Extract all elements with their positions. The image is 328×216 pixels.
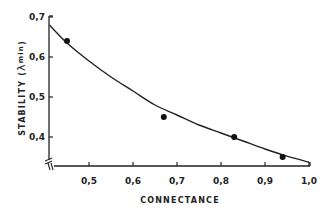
x-tick-label: 0,8 xyxy=(213,176,229,186)
y-axis-title-close: ) xyxy=(18,40,27,45)
x-tick-label: 0,9 xyxy=(257,176,273,186)
y-axis-title-subscript: min xyxy=(17,45,25,63)
y-axis-title: STABILITY (λmin) xyxy=(15,40,28,136)
x-tick-label: 1,0 xyxy=(301,176,317,186)
x-tick-label: 0,7 xyxy=(169,176,185,186)
y-tick-label: 0,6 xyxy=(29,52,45,62)
x-axis-title: CONNECTANCE xyxy=(140,196,220,205)
data-point xyxy=(231,134,237,140)
chart: 0,50,60,70,80,91,0 0,40,50,60,7 CONNECTA… xyxy=(0,0,328,216)
x-tick-label: 0,5 xyxy=(81,176,97,186)
fitted-curve xyxy=(49,25,309,162)
y-axis-title-main: STABILITY ( xyxy=(18,71,27,136)
svg-text:STABILITY (λmin): STABILITY (λmin) xyxy=(15,40,28,136)
data-point xyxy=(161,114,167,120)
data-points xyxy=(64,38,286,160)
y-tick-label: 0,4 xyxy=(29,132,45,142)
y-tick-label: 0,5 xyxy=(29,92,45,102)
axis-break-marks xyxy=(45,158,53,170)
lambda-symbol: λ xyxy=(15,63,28,71)
y-tick-label: 0,7 xyxy=(29,12,45,22)
data-point xyxy=(64,38,70,44)
x-tick-label: 0,6 xyxy=(125,176,141,186)
axes: 0,50,60,70,80,91,0 0,40,50,60,7 xyxy=(29,12,317,186)
data-point xyxy=(280,154,286,160)
